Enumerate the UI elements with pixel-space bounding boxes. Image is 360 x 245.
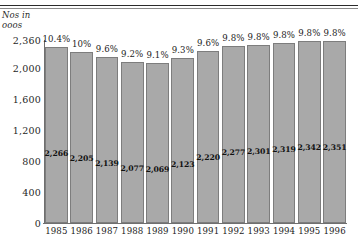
bar: 9.8%2,351 bbox=[323, 41, 346, 223]
bar: 9.6%2,139 bbox=[96, 57, 119, 223]
x-axis-tick-1991: 1991 bbox=[197, 226, 220, 242]
bar: 9.3%2,123 bbox=[171, 58, 194, 223]
bar: 9.8%2,301 bbox=[247, 45, 270, 223]
bar-percent-label: 9.2% bbox=[121, 49, 143, 59]
x-axis-tick-1992: 1992 bbox=[222, 226, 245, 242]
bar-value-label: 2,277 bbox=[222, 148, 246, 157]
bar-value-label: 2,077 bbox=[120, 164, 144, 173]
bar-column: 9.8%2,301 bbox=[247, 40, 270, 223]
x-axis-tick-1986: 1986 bbox=[70, 226, 93, 242]
bar-percent-label: 9.8% bbox=[323, 28, 345, 38]
x-axis-tick-labels: 1985198619871988198919901991199219931994… bbox=[45, 226, 346, 242]
bar: 9.1%2,069 bbox=[146, 63, 169, 223]
bar-percent-label: 9.8% bbox=[248, 32, 270, 42]
y-axis-tick-1200: 1,200 bbox=[1, 124, 41, 135]
x-axis-tick-1988: 1988 bbox=[121, 226, 144, 242]
header-rule-secondary bbox=[0, 8, 358, 9]
bar: 9.8%2,319 bbox=[273, 43, 296, 223]
bar-value-label: 2,266 bbox=[45, 149, 69, 158]
x-axis-tick-1996: 1996 bbox=[323, 226, 346, 242]
bar-value-label: 2,351 bbox=[323, 143, 347, 152]
y-axis-tick-400: 400 bbox=[1, 186, 41, 197]
bar: 9.6%2,220 bbox=[197, 51, 220, 223]
bar-value-label: 2,220 bbox=[196, 153, 220, 162]
bar-percent-label: 10.4% bbox=[42, 34, 70, 44]
bar: 10%2,205 bbox=[70, 52, 93, 223]
bar-percent-label: 9.8% bbox=[273, 30, 295, 40]
x-axis-tick-1989: 1989 bbox=[146, 226, 169, 242]
bar-value-label: 2,069 bbox=[146, 165, 170, 174]
bar-value-label: 2,342 bbox=[298, 143, 322, 152]
x-axis-tick-1995: 1995 bbox=[298, 226, 321, 242]
bar-percent-label: 9.6% bbox=[96, 44, 118, 54]
bar-column: 10%2,205 bbox=[70, 40, 93, 223]
bar-column: 9.8%2,277 bbox=[222, 40, 245, 223]
bar-value-label: 2,205 bbox=[70, 154, 94, 163]
y-axis-tick-2360: 2,360 bbox=[1, 35, 41, 46]
bar-column: 9.8%2,342 bbox=[298, 40, 321, 223]
y-axis-tick-0: 0 bbox=[1, 217, 41, 228]
bar-percent-label: 9.8% bbox=[298, 28, 320, 38]
bar: 9.8%2,342 bbox=[298, 41, 321, 223]
bar-value-label: 2,301 bbox=[247, 147, 271, 156]
header-rule bbox=[0, 5, 358, 6]
x-axis-tick-1985: 1985 bbox=[45, 226, 68, 242]
bar-column: 9.1%2,069 bbox=[146, 40, 169, 223]
y-axis-tick-800: 800 bbox=[1, 155, 41, 166]
y-axis-tick-labels: 2,3602,0001,6001,2008004000 bbox=[0, 0, 41, 245]
bar-column: 10.4%2,266 bbox=[45, 40, 68, 223]
bar: 9.8%2,277 bbox=[222, 46, 245, 223]
bar-column: 9.6%2,139 bbox=[96, 40, 119, 223]
chart-figure: Nos in ooos 2,3602,0001,6001,2008004000 … bbox=[0, 0, 360, 245]
x-axis-tick-1990: 1990 bbox=[171, 226, 194, 242]
bar: 10.4%2,266 bbox=[45, 47, 68, 223]
x-axis-tick-1987: 1987 bbox=[96, 226, 119, 242]
bar: 9.2%2,077 bbox=[121, 62, 144, 223]
bar-percent-label: 9.6% bbox=[197, 38, 219, 48]
bar-value-label: 2,139 bbox=[95, 159, 119, 168]
x-axis-tick-1993: 1993 bbox=[247, 226, 270, 242]
bar-percent-label: 9.3% bbox=[172, 45, 194, 55]
y-axis-tick-2000: 2,000 bbox=[1, 62, 41, 73]
bar-series: 10.4%2,26610%2,2059.6%2,1399.2%2,0779.1%… bbox=[45, 40, 346, 223]
bar-value-label: 2,123 bbox=[171, 160, 195, 169]
y-axis-tick-1600: 1,600 bbox=[1, 93, 41, 104]
bar-column: 9.8%2,351 bbox=[323, 40, 346, 223]
bar-value-label: 2,319 bbox=[272, 145, 296, 154]
bar-percent-label: 9.8% bbox=[222, 33, 244, 43]
bar-column: 9.6%2,220 bbox=[197, 40, 220, 223]
bar-column: 9.2%2,077 bbox=[121, 40, 144, 223]
bar-percent-label: 9.1% bbox=[146, 50, 168, 60]
bar-percent-label: 10% bbox=[72, 39, 91, 49]
bar-column: 9.8%2,319 bbox=[273, 40, 296, 223]
x-axis-tick-1994: 1994 bbox=[273, 226, 296, 242]
bar-column: 9.3%2,123 bbox=[171, 40, 194, 223]
